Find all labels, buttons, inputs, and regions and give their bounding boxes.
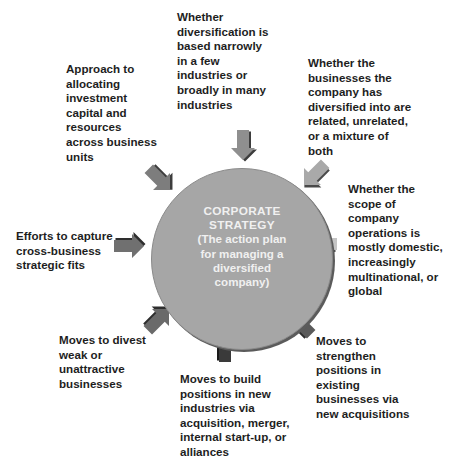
- arrow-top-left-icon: [140, 159, 181, 200]
- label-business-relatedness: Whether the businesses the company has d…: [308, 56, 411, 158]
- label-divest: Moves to divest weak or unattractive bus…: [59, 333, 146, 391]
- label-cross-business-fits: Efforts to capture cross-business strate…: [16, 229, 113, 273]
- center-title-line2: STRATEGY: [151, 218, 333, 232]
- center-title-line1: CORPORATE: [151, 204, 333, 218]
- arrow-left-icon: [114, 232, 146, 258]
- label-build-positions: Moves to build positions in new industri…: [180, 372, 290, 460]
- label-strengthen-positions: Moves to strengthen positions in existin…: [316, 334, 409, 422]
- label-diversification-breadth: Whether diversification is based narrowl…: [177, 10, 269, 112]
- label-capital-allocation: Approach to allocating investment capita…: [66, 62, 157, 164]
- label-operations-scope: Whether the scope of company operations …: [348, 182, 443, 299]
- center-text: CORPORATE STRATEGY (The action plan for …: [151, 204, 333, 289]
- arrow-top-icon: [231, 130, 257, 162]
- center-subtitle: (The action plan for managing a diversif…: [151, 232, 333, 289]
